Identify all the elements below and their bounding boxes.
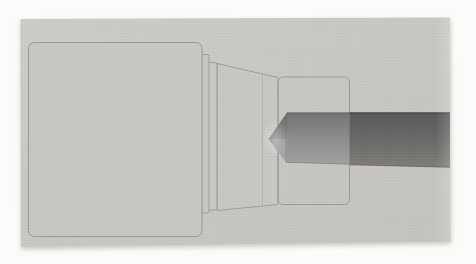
figure-canvas — [0, 0, 476, 264]
scanned-figure — [0, 0, 476, 264]
halftone-texture — [20, 17, 451, 248]
